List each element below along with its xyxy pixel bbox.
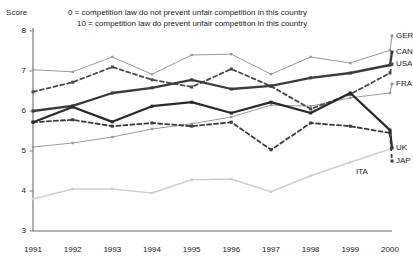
y-tick-label: 3 (12, 226, 26, 235)
series-line-usa (33, 67, 390, 109)
x-tick-label: 1996 (211, 245, 251, 254)
x-tick-label: 1992 (53, 245, 93, 254)
data-point-usa (190, 86, 193, 89)
data-point-uk (32, 121, 35, 124)
data-point-can (111, 92, 114, 95)
data-point-uk (349, 92, 352, 95)
data-point-fra (270, 104, 272, 106)
data-point-ger (151, 73, 153, 75)
data-point-usa (230, 68, 233, 71)
data-point-jap (151, 122, 154, 125)
data-point-fra (191, 123, 193, 125)
data-point-ger (111, 56, 113, 58)
data-point-can (270, 84, 273, 87)
data-point-fra (151, 128, 153, 130)
data-point-ita (71, 188, 74, 191)
data-point-uk (190, 101, 193, 104)
data-point-ger (310, 56, 312, 58)
data-point-usa (32, 90, 35, 93)
data-point-jap (309, 122, 312, 125)
data-point-fra (72, 142, 74, 144)
y-tick-label: 5 (12, 146, 26, 155)
data-point-ger (72, 71, 74, 73)
data-point-can (349, 72, 352, 75)
y-tick-label: 8 (12, 26, 26, 35)
legend-marker-jap (391, 160, 394, 163)
data-point-fra (230, 116, 232, 118)
series-annotation-ita: ITA (356, 167, 368, 176)
x-tick-label: 1998 (291, 245, 331, 254)
y-tick-label: 4 (12, 186, 26, 195)
data-point-jap (111, 125, 114, 128)
legend-marker-ger (391, 35, 394, 38)
series-line-jap (33, 120, 390, 150)
x-tick-label: 1993 (92, 245, 132, 254)
data-point-usa (309, 108, 312, 111)
x-tick-label: 1997 (251, 245, 291, 254)
data-point-ita (32, 198, 35, 201)
data-point-jap (190, 125, 193, 128)
data-point-ita (270, 191, 273, 194)
x-tick-label: 1994 (132, 245, 172, 254)
x-tick-label: 1999 (330, 245, 370, 254)
legend-marker-can (391, 51, 394, 54)
legend-label-uk[interactable]: UK (396, 143, 407, 152)
data-point-ita (111, 188, 114, 191)
y-tick-label: 6 (12, 106, 26, 115)
data-point-can (230, 88, 233, 91)
data-point-jap (349, 125, 352, 128)
data-point-ger (349, 62, 351, 64)
data-point-can (309, 76, 312, 79)
data-point-usa (111, 66, 114, 69)
legend-connector-uk (390, 130, 392, 148)
legend-label-jap[interactable]: JAP (396, 156, 411, 165)
x-tick-label: 2000 (370, 245, 410, 254)
series-line-can (33, 65, 390, 111)
legend-connector-ger (390, 36, 392, 50)
series-line-ger (33, 50, 390, 74)
data-point-uk (309, 112, 312, 115)
x-tick-label: 1991 (13, 245, 53, 254)
y-tick-label: 7 (12, 66, 26, 75)
data-point-uk (71, 106, 74, 109)
legend-label-usa[interactable]: USA (396, 59, 412, 68)
data-point-jap (71, 118, 74, 121)
data-point-can (32, 110, 35, 113)
data-point-uk (111, 120, 114, 123)
x-tick-label: 1995 (172, 245, 212, 254)
data-point-fra (349, 97, 351, 99)
data-point-ita (230, 178, 233, 181)
data-point-fra (32, 146, 34, 148)
data-point-ita (151, 192, 154, 195)
legend-label-can[interactable]: CAN (396, 47, 413, 56)
data-point-can (151, 86, 154, 89)
data-point-ita (349, 161, 352, 164)
data-point-uk (230, 112, 233, 115)
legend-label-fra[interactable]: FRA (396, 79, 412, 88)
legend-marker-usa (391, 63, 394, 66)
data-point-fra (310, 105, 312, 107)
data-point-jap (270, 148, 273, 151)
data-point-usa (71, 81, 74, 84)
data-point-uk (151, 105, 154, 108)
data-point-usa (151, 78, 154, 81)
data-point-can (190, 78, 193, 81)
legend-label-ger[interactable]: GER (396, 31, 413, 40)
series-line-ita (33, 149, 390, 199)
data-point-jap (230, 121, 233, 124)
data-point-ita (309, 175, 312, 178)
data-point-ger (230, 53, 232, 55)
data-point-ger (32, 69, 34, 71)
data-point-uk (270, 101, 273, 104)
data-point-ger (270, 73, 272, 75)
data-point-fra (111, 136, 113, 138)
legend-marker-fra (391, 83, 394, 86)
data-point-ita (190, 179, 193, 182)
data-point-ger (191, 54, 193, 56)
